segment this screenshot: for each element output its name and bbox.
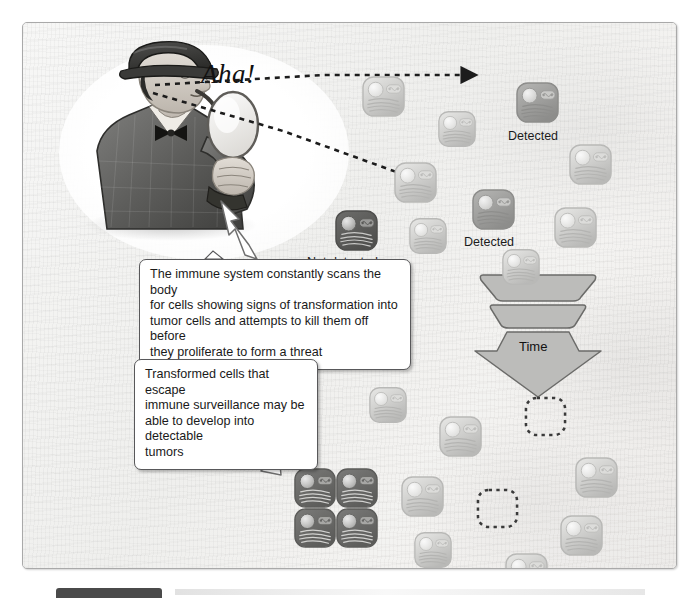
illustration-panel: Aha! Time xyxy=(22,22,677,569)
callout-immune-surveillance: The immune system constantly scans the b… xyxy=(139,259,411,370)
callout-2-line-3: able to develop into detectable xyxy=(145,414,308,445)
time-label: Time xyxy=(519,339,547,354)
tumor-cell xyxy=(335,507,379,549)
cell-dark xyxy=(334,209,379,252)
callout-2-line-1: Transformed cells that escape xyxy=(145,367,308,398)
callout-2-line-4: tumors xyxy=(145,445,308,461)
cell-light xyxy=(400,475,445,518)
cell-light xyxy=(437,110,477,148)
label-detected-mid: Detected xyxy=(464,235,514,249)
callout-escape-surveillance: Transformed cells that escape immune sur… xyxy=(134,359,318,470)
cell-light xyxy=(559,514,604,557)
cell-light xyxy=(408,217,448,255)
cell-light xyxy=(501,248,541,286)
cell-light xyxy=(438,415,483,458)
tumor-cell xyxy=(335,467,379,509)
tumor-cell xyxy=(293,507,337,549)
cell-killed-outline xyxy=(523,395,568,438)
callout-2-line-2: immune surveillance may be xyxy=(145,398,308,414)
cell-light xyxy=(393,161,438,204)
callout-1-line-2: for cells showing signs of transformatio… xyxy=(150,298,401,314)
aha-text: Aha! xyxy=(201,59,255,90)
cell-light xyxy=(568,143,613,186)
cell-killed-outline xyxy=(475,487,520,530)
tumor-cell xyxy=(293,467,337,509)
label-detected-top: Detected xyxy=(508,129,558,143)
cell-detected xyxy=(515,81,560,124)
bottom-cut-text xyxy=(175,589,645,595)
detective-illustration xyxy=(67,41,297,241)
cell-light xyxy=(368,386,408,424)
bottom-cut-bar xyxy=(56,588,162,598)
cell-light xyxy=(553,206,598,249)
cell-light xyxy=(361,75,406,118)
cell-light xyxy=(504,552,549,569)
callout-1-line-1: The immune system constantly scans the b… xyxy=(150,267,401,298)
cell-detected xyxy=(471,188,516,231)
callout-1-line-3: tumor cells and attempts to kill them of… xyxy=(150,314,401,345)
cell-light xyxy=(574,456,619,499)
cell-light xyxy=(413,531,453,569)
